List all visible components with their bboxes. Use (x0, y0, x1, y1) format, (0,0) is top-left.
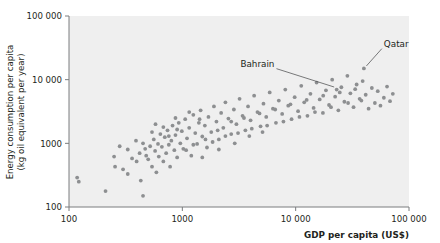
data-point (385, 85, 389, 89)
data-point (382, 96, 386, 100)
data-point (195, 142, 199, 146)
data-point (164, 151, 168, 155)
data-point (229, 132, 233, 136)
data-point (293, 95, 297, 99)
data-point (113, 165, 117, 169)
data-point (336, 108, 340, 112)
data-point (312, 106, 316, 110)
data-point (146, 157, 150, 161)
y-tick-label: 100 (46, 202, 62, 212)
x-axis-title: GDP per capita (US$) (304, 230, 409, 240)
y-axis-ticks: 100100010 000100 000 (26, 11, 69, 212)
data-point (376, 89, 380, 93)
data-point (352, 105, 356, 109)
data-point (172, 148, 176, 152)
data-point (318, 97, 322, 101)
data-point (161, 160, 165, 164)
x-tick-label: 10 000 (281, 214, 311, 224)
data-point (232, 108, 236, 112)
data-point (212, 105, 216, 109)
data-point (77, 180, 81, 184)
data-point (259, 124, 263, 128)
data-point (298, 115, 302, 119)
data-point (289, 102, 293, 106)
data-point (233, 141, 237, 145)
data-point (139, 179, 143, 183)
data-point (238, 97, 242, 101)
chart-canvas: QatarBahrain 100100010 000100 000 100100… (0, 0, 440, 243)
data-point (178, 141, 182, 145)
data-point (243, 128, 247, 132)
data-point (355, 83, 359, 87)
data-point (249, 118, 253, 122)
data-point (306, 114, 310, 118)
data-point (184, 148, 188, 152)
data-point (189, 154, 193, 158)
data-point (277, 99, 281, 103)
data-point (321, 111, 325, 115)
data-point (161, 125, 165, 129)
data-point (353, 87, 357, 91)
data-point (283, 88, 287, 92)
data-point (126, 172, 130, 176)
data-point (169, 139, 173, 143)
data-point (290, 117, 294, 121)
data-point (342, 100, 346, 104)
data-point (252, 94, 256, 98)
data-point (236, 131, 240, 135)
data-point (235, 122, 239, 126)
annotation-label-bahrain: Bahrain (240, 59, 274, 69)
data-point (200, 135, 204, 139)
y-tick-label: 10 000 (32, 75, 62, 85)
data-point (391, 92, 395, 96)
data-point (160, 145, 164, 149)
data-point (199, 108, 203, 112)
data-point (242, 116, 246, 120)
data-point (121, 167, 125, 171)
data-point (166, 128, 170, 132)
data-point (280, 112, 284, 116)
y-axis-title-line2: (kg oil equivalent per year) (16, 54, 26, 171)
data-point (313, 110, 317, 114)
data-point (215, 120, 219, 124)
data-point (258, 112, 262, 116)
data-point (221, 126, 225, 130)
data-point (329, 105, 333, 109)
data-point (154, 170, 158, 174)
data-point (338, 91, 342, 95)
data-point (361, 79, 365, 83)
y-axis-title-line1: Energy consumption per capita (5, 45, 15, 180)
data-point (217, 138, 221, 142)
data-point (158, 132, 162, 136)
data-point (203, 124, 207, 128)
data-point (265, 124, 269, 128)
data-point (168, 165, 172, 169)
data-point (229, 120, 233, 124)
data-point (247, 134, 251, 138)
data-point (227, 117, 231, 121)
data-point (177, 121, 181, 125)
x-axis-ticks: 100100010 000100 000 (61, 207, 427, 224)
data-point (104, 189, 108, 193)
data-point (187, 126, 191, 130)
data-point (370, 86, 374, 90)
data-point (364, 93, 368, 97)
data-point (167, 143, 171, 147)
data-point (367, 107, 371, 111)
data-point (333, 95, 337, 99)
data-point (250, 127, 254, 131)
data-point (379, 104, 383, 108)
data-point (335, 88, 339, 92)
data-point (217, 148, 221, 152)
data-point (346, 101, 350, 105)
data-point (138, 151, 142, 155)
data-point (193, 131, 197, 135)
annotation-label-qatar: Qatar (384, 39, 409, 49)
x-tick-label: 1000 (171, 214, 193, 224)
data-point (204, 138, 208, 142)
data-point (296, 109, 300, 113)
data-point (163, 135, 167, 139)
data-point (175, 128, 179, 132)
data-point (262, 102, 266, 106)
data-point (130, 157, 134, 161)
